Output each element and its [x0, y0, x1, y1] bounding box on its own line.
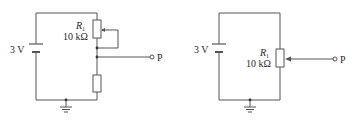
battery-voltage-label: 3 V [10, 44, 25, 55]
right-circuit [212, 13, 337, 112]
battery-voltage-label: 3 V [194, 44, 209, 55]
ground-icon [244, 100, 256, 112]
ground-icon [60, 100, 72, 112]
output-p-label: P [340, 54, 346, 65]
resistor-value-label: 10 kΩ [63, 31, 88, 42]
potentiometer-r1 [276, 49, 284, 67]
battery-icon [212, 44, 226, 52]
terminal-p-icon [150, 55, 154, 59]
potentiometer-r1 [93, 20, 101, 38]
wiper-arrow-icon [285, 57, 333, 62]
terminal-p-icon [333, 57, 337, 61]
junction-dot [96, 47, 99, 50]
resistor-value-label: 10 kΩ [246, 58, 271, 69]
fixed-resistor [93, 75, 101, 92]
battery-icon [29, 44, 43, 52]
left-circuit [29, 13, 154, 112]
circuit-diagrams: 3 V R1 10 kΩ P 3 V R1 10 kΩ P [0, 0, 361, 126]
output-p-label: P [157, 52, 163, 63]
